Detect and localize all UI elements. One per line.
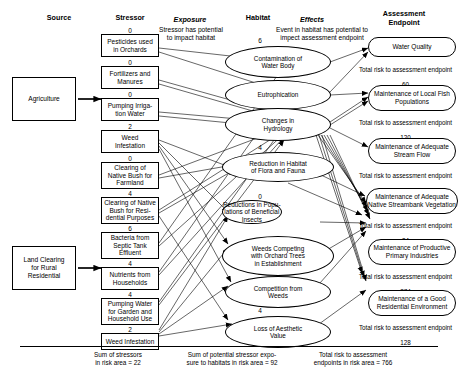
column-header-habitat: Habitat [228, 14, 288, 23]
stressor-box-pesticides-used-in-orchards[interactable]: Pesticides used in Orchards [101, 34, 159, 57]
stressor-score-5: 4 [101, 190, 159, 197]
habitat-group-score-residential: 4 [258, 307, 262, 314]
column-header-effects: Effects [282, 16, 342, 25]
source-box-agriculture[interactable]: Agriculture [12, 77, 76, 121]
endpoint-native-streambank-vegetation[interactable]: Maintenance of Adequate Native Streamban… [366, 188, 458, 214]
endpoint-water-quality[interactable]: Water Quality [368, 37, 456, 57]
habitat-loss-of-aesthetic-value[interactable]: Loss of Aesthetic Value [225, 316, 331, 348]
stressor-box-fertilizers-and-manures[interactable]: Fortilizers and Manures [101, 66, 159, 89]
summary-total-risk: Total risk to assessment endpoints in ri… [288, 351, 418, 366]
stressor-score-1: 0 [101, 59, 159, 66]
endpoint-total-caption-1: Total risk to assessment endpoint [359, 119, 452, 126]
endpoint-total-caption-3: Total risk to assessment endpoint [359, 222, 452, 229]
endpoint-total-caption-0: Total risk to assessment endpoint [359, 66, 452, 73]
habitat-competition-from-weeds[interactable]: Competition from Weeds [225, 276, 331, 308]
endpoint-good-residential-environment[interactable]: Maintenance of a Good Residential Enviro… [368, 290, 456, 316]
column-header-stressor: Stressor [99, 14, 161, 23]
endpoint-total-caption-2: Total risk to assessment endpoint [359, 172, 452, 179]
stressor-box-weed-infestation-agriculture[interactable]: Weed Infestation [101, 130, 159, 153]
endpoint-productive-primary-industries[interactable]: Maintenance of Productive Primary Indust… [368, 239, 456, 265]
habitat-reduction-in-habitat-flora-fauna[interactable]: Reduction in Habitat of Flora and Fauna [222, 152, 334, 182]
habitat-eutrophication[interactable]: Eutrophication [225, 80, 331, 110]
habitat-reductions-populations-beneficial-insects[interactable]: Reductions in Popu- lations of Beneficia… [222, 200, 282, 224]
stressor-score-0: 0 [101, 27, 159, 34]
stressor-box-pumping-water-garden-household[interactable]: Pumping Water for Garden and Household U… [101, 298, 159, 325]
stressor-box-clearing-native-bush-residential[interactable]: Clearing of Native Bush for Resi- dentia… [101, 197, 159, 224]
conceptual-model-diagram: Source Stressor Exposure Stressor has po… [0, 0, 459, 375]
habitat-group-score-aquatic: 6 [258, 37, 262, 44]
habitat-group-score-native-vegetation: 4 [258, 144, 262, 151]
stressor-box-pumping-irrigation-water[interactable]: Pumping Irriga- tion Water [101, 98, 159, 121]
stressor-box-bacteria-septic-tank[interactable]: Bacteria from Septic Tank Effluent [101, 232, 159, 259]
stressor-box-weed-infestation-residential[interactable]: Weed Infestation [101, 333, 159, 350]
stressor-score-6: 6 [101, 225, 159, 232]
stressor-score-9: 2 [101, 326, 159, 333]
stressor-score-4: 0 [101, 155, 159, 162]
column-header-assessment-endpoint: Assessment Endpoint [366, 10, 442, 27]
column-header-exposure: Exposure [160, 16, 220, 25]
stressor-box-clearing-native-bush-farmland[interactable]: Clearing of Native Bush for Farmland [101, 162, 159, 189]
endpoint-local-fish-populations[interactable]: Maintenance of Local Fish Populations [368, 85, 456, 111]
stressor-score-7: 4 [101, 260, 159, 267]
footer-divider [20, 346, 438, 347]
stressor-box-nutrients-from-households[interactable]: Nutrients from Households [101, 267, 159, 290]
stressor-score-8: 4 [101, 291, 159, 298]
summary-sum-of-stressors: Sum of stressors in risk area = 22 [58, 351, 178, 366]
endpoint-total-good-residential-environment: Total risk to assessment endpoint 128 [352, 317, 459, 347]
endpoint-total-caption-5: Total risk to assessment endpoint [359, 324, 452, 331]
column-header-source: Source [28, 14, 90, 23]
stressor-score-3: 2 [101, 123, 159, 130]
source-box-land-clearing[interactable]: Land Clearing for Rural Residential [12, 246, 76, 290]
exposure-description: Stressor has potential to impact habitat [156, 26, 226, 41]
habitat-contamination-of-water-body[interactable]: Contamination of Water Body [225, 46, 331, 78]
summary-sum-of-exposure: Sum of potential stressor expo- sure to … [162, 351, 302, 366]
habitat-changes-in-hydrology[interactable]: Changes in Hydrology [225, 108, 331, 141]
endpoint-adequate-stream-flow[interactable]: Maintenance of Adequate Stream Flow [368, 138, 456, 164]
stressor-score-2: 0 [101, 91, 159, 98]
endpoint-total-caption-4: Total risk to assessment endpoint [359, 273, 452, 280]
habitat-weeds-competing-orchard-trees[interactable]: Weeds Competing with Orchard Trees in Es… [222, 236, 334, 276]
